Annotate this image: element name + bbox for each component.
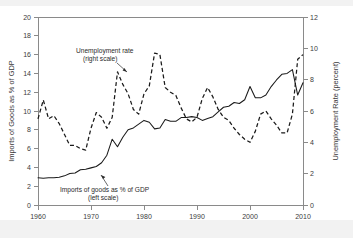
x-tick-label: 2000 bbox=[242, 213, 258, 220]
right-tick-label: 12 bbox=[310, 14, 318, 21]
right-axis-ticks: 12 10 8 6 4 2 0 bbox=[303, 14, 318, 209]
left-axis-ticks: 20 18 16 14 12 10 8 6 4 2 0 bbox=[23, 14, 38, 209]
imports-annotation-line2: (left scale) bbox=[88, 194, 118, 202]
left-tick-label: 14 bbox=[23, 70, 31, 77]
right-tick-label: 0 bbox=[310, 202, 314, 209]
unemployment-annotation-line2: (right scale) bbox=[83, 55, 117, 63]
left-tick-label: 0 bbox=[27, 202, 31, 209]
imports-annotation: Imports of goods as % of GDP (left scale… bbox=[60, 175, 150, 202]
right-tick-label: 8 bbox=[310, 76, 314, 83]
left-tick-label: 20 bbox=[23, 14, 31, 21]
left-tick-label: 10 bbox=[23, 108, 31, 115]
right-tick-label: 6 bbox=[310, 108, 314, 115]
imports-annotation-arrow bbox=[101, 175, 105, 179]
right-tick-label: 10 bbox=[310, 45, 318, 52]
chart-canvas: 20 18 16 14 12 10 8 6 4 2 0 12 bbox=[0, 0, 353, 238]
left-tick-label: 6 bbox=[27, 145, 31, 152]
x-tick-label: 1980 bbox=[136, 213, 152, 220]
plot-frame bbox=[38, 17, 303, 205]
left-tick-label: 2 bbox=[27, 183, 31, 190]
chart-figure: 20 18 16 14 12 10 8 6 4 2 0 12 bbox=[0, 0, 353, 238]
series-unemployment-rate bbox=[38, 53, 303, 150]
x-tick-label: 2010 bbox=[295, 213, 311, 220]
imports-annotation-line1: Imports of goods as % of GDP bbox=[60, 186, 150, 194]
left-tick-label: 16 bbox=[23, 51, 31, 58]
left-tick-label: 4 bbox=[27, 164, 31, 171]
unemployment-annotation-line1: Unemployment rate bbox=[76, 47, 134, 55]
x-tick-label: 1960 bbox=[30, 213, 46, 220]
unemployment-annotation: Unemployment rate (right scale) bbox=[76, 47, 134, 72]
left-tick-label: 18 bbox=[23, 32, 31, 39]
right-tick-label: 4 bbox=[310, 139, 314, 146]
series-imports-of-goods bbox=[38, 70, 303, 179]
left-tick-label: 8 bbox=[27, 126, 31, 133]
x-axis-ticks: 1960 1970 1980 1990 2000 2010 bbox=[30, 205, 311, 220]
x-tick-label: 1990 bbox=[189, 213, 205, 220]
right-axis-title: Unemployment Rate (percent) bbox=[331, 62, 340, 161]
left-tick-label: 12 bbox=[23, 89, 31, 96]
right-tick-label: 2 bbox=[310, 170, 314, 177]
left-axis-title: Imports of Goods as % of GDP bbox=[7, 60, 16, 162]
x-tick-label: 1970 bbox=[83, 213, 99, 220]
